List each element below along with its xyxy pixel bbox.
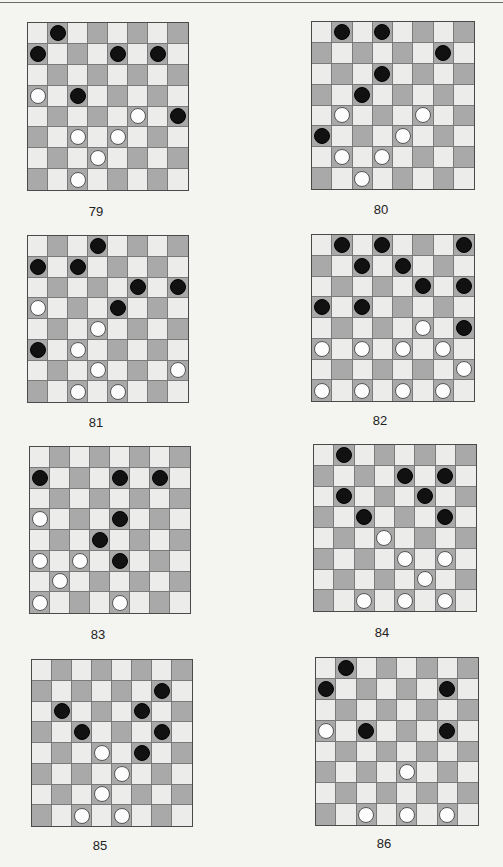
dark-square <box>353 43 373 64</box>
dark-square <box>148 86 168 107</box>
dark-square <box>52 660 72 681</box>
light-square <box>92 805 112 826</box>
light-square <box>415 549 435 570</box>
dark-square <box>458 700 478 721</box>
light-square <box>334 590 354 611</box>
dark-square <box>353 85 373 106</box>
light-square <box>88 381 108 402</box>
white-checker-piece <box>399 764 415 780</box>
light-square <box>68 23 88 44</box>
light-square <box>312 147 332 168</box>
white-checker-piece <box>354 171 370 187</box>
light-square <box>70 572 90 593</box>
white-checker-piece <box>112 595 128 611</box>
dark-square <box>377 783 397 804</box>
dark-square <box>353 168 373 189</box>
black-checker-piece <box>50 25 66 41</box>
light-square <box>128 257 148 278</box>
black-checker-piece <box>437 468 453 484</box>
light-square <box>434 64 454 85</box>
white-checker-piece <box>415 320 431 336</box>
dark-square <box>148 298 168 319</box>
dark-square <box>373 318 393 339</box>
light-square <box>90 468 110 489</box>
light-square <box>438 658 458 679</box>
dark-square <box>417 742 437 763</box>
light-square <box>28 236 48 257</box>
black-checker-piece <box>70 88 86 104</box>
dark-square <box>393 126 413 147</box>
dark-square <box>132 785 152 806</box>
light-square <box>456 507 476 528</box>
dark-square <box>50 489 70 510</box>
dark-square <box>393 339 413 360</box>
dark-square <box>456 528 476 549</box>
dark-square <box>312 297 332 318</box>
dark-square <box>438 804 458 825</box>
black-checker-piece <box>456 278 472 294</box>
light-square <box>110 530 130 551</box>
light-square <box>50 468 70 489</box>
white-checker-piece <box>334 149 350 165</box>
white-checker-piece <box>354 383 370 399</box>
dark-square <box>413 235 433 256</box>
light-square <box>357 783 377 804</box>
dark-square <box>48 148 68 169</box>
black-checker-piece <box>395 258 411 274</box>
dark-square <box>68 86 88 107</box>
light-square <box>436 445 456 466</box>
light-square <box>397 658 417 679</box>
dark-square <box>393 85 413 106</box>
dark-square <box>72 722 92 743</box>
dark-square <box>458 658 478 679</box>
light-square <box>454 256 474 277</box>
light-square <box>130 468 150 489</box>
light-square <box>48 298 68 319</box>
light-square <box>373 43 393 64</box>
dark-square <box>395 590 415 611</box>
light-square <box>413 297 433 318</box>
dark-square <box>375 487 395 508</box>
light-square <box>355 445 375 466</box>
white-checker-piece <box>94 745 110 761</box>
light-square <box>112 743 132 764</box>
dark-square <box>112 805 132 826</box>
black-checker-piece <box>336 447 352 463</box>
dark-square <box>415 487 435 508</box>
dark-square <box>355 549 375 570</box>
checkers-board <box>311 21 475 190</box>
light-square <box>393 64 413 85</box>
dark-square <box>434 380 454 401</box>
dark-square <box>152 764 172 785</box>
light-square <box>70 447 90 468</box>
light-square <box>148 23 168 44</box>
light-square <box>92 722 112 743</box>
light-square <box>172 681 192 702</box>
dark-square <box>90 489 110 510</box>
dark-square <box>413 64 433 85</box>
light-square <box>48 381 68 402</box>
light-square <box>108 319 128 340</box>
light-square <box>456 466 476 487</box>
dark-square <box>332 64 352 85</box>
light-square <box>413 256 433 277</box>
dark-square <box>413 277 433 298</box>
dark-square <box>128 65 148 86</box>
light-square <box>336 721 356 742</box>
checkers-board <box>315 657 479 826</box>
white-checker-piece <box>70 384 86 400</box>
dark-square <box>316 679 336 700</box>
black-checker-piece <box>439 681 455 697</box>
light-square <box>70 530 90 551</box>
light-square <box>353 106 373 127</box>
light-square <box>108 148 128 169</box>
light-square <box>373 168 393 189</box>
dark-square <box>393 380 413 401</box>
dark-square <box>355 466 375 487</box>
dark-square <box>28 86 48 107</box>
light-square <box>108 107 128 128</box>
dark-square <box>92 743 112 764</box>
white-checker-piece <box>435 383 451 399</box>
dark-square <box>397 679 417 700</box>
light-square <box>436 528 456 549</box>
